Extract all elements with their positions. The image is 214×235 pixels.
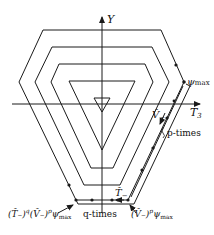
hexagon-level-diagram: Y T3 ψmax V̂− p-times T̂− q-times (T̂₋)q… xyxy=(0,0,214,235)
y-axis-label: Y xyxy=(107,13,116,26)
p-times-label: p-times xyxy=(167,128,201,138)
bottom-left-label: (T̂₋)q(V̂₋)pψmax xyxy=(8,207,72,220)
t3-axis-label: T3 xyxy=(190,106,202,120)
q-times-label: q-times xyxy=(83,209,117,219)
v-minus-label: V̂− xyxy=(152,109,165,122)
psi-max-label: ψmax xyxy=(187,76,210,87)
trajectory-path xyxy=(76,84,190,204)
bottom-right-label: (V̂₋)pψmax xyxy=(131,207,173,220)
t-minus-label: T̂− xyxy=(115,187,128,200)
diagram-canvas: Y T3 ψmax V̂− p-times T̂− q-times (T̂₋)q… xyxy=(0,0,214,235)
